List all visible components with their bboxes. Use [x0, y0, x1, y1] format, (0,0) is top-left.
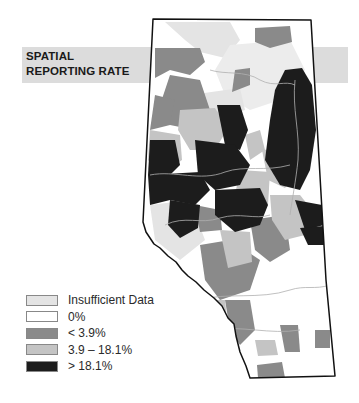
swatch-low — [26, 328, 58, 339]
legend-label: 3.9 – 18.1% — [68, 343, 132, 357]
legend-item-zero: 0% — [26, 309, 154, 325]
legend-item-medium: 3.9 – 18.1% — [26, 342, 154, 358]
legend-label: 0% — [68, 310, 85, 324]
swatch-zero — [26, 311, 58, 322]
swatch-insufficient-data — [26, 295, 58, 306]
swatch-high — [26, 361, 58, 372]
swatch-medium — [26, 344, 58, 355]
legend-label: Insufficient Data — [68, 293, 154, 307]
map-regions — [140, 15, 340, 385]
legend-label: < 3.9% — [68, 326, 106, 340]
legend-item-low: < 3.9% — [26, 325, 154, 341]
legend-item-insufficient-data: Insufficient Data — [26, 292, 154, 308]
legend: Insufficient Data 0% < 3.9% 3.9 – 18.1% … — [26, 292, 154, 375]
legend-label: > 18.1% — [68, 359, 112, 373]
legend-item-high: > 18.1% — [26, 358, 154, 374]
